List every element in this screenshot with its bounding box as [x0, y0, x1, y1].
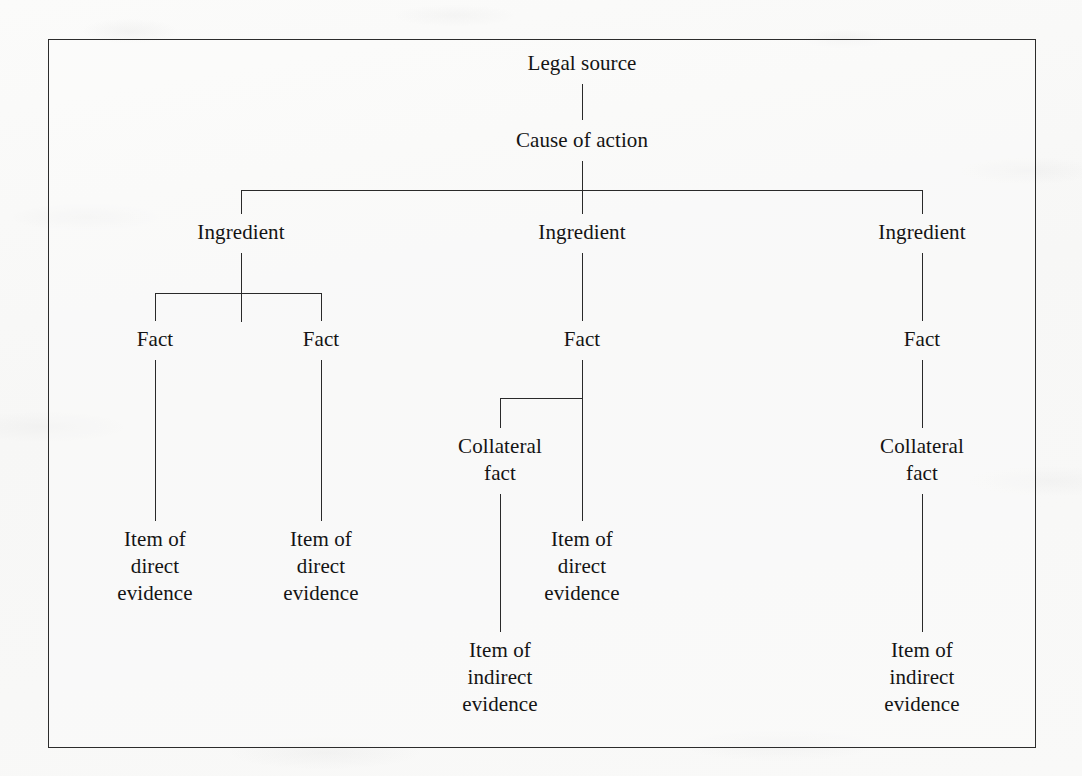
edge-bus-to-collateral-fact-1 — [500, 398, 501, 428]
node-item-indirect-evidence-2: Item of indirect evidence — [884, 637, 959, 718]
edge-fact-1-to-direct-evidence-1 — [155, 360, 156, 521]
node-ingredient-2: Ingredient — [538, 219, 625, 246]
figure-page: Legal source Cause of action Ingredient … — [0, 0, 1082, 776]
node-fact-2: Fact — [303, 326, 340, 353]
node-collateral-fact-2: Collateral fact — [880, 433, 964, 487]
node-legal-source: Legal source — [527, 50, 636, 77]
edge-bus-to-ingredient-3 — [922, 190, 923, 214]
edge-fact-2-to-direct-evidence-2 — [321, 360, 322, 521]
node-item-direct-evidence-2: Item of direct evidence — [283, 526, 358, 607]
node-cause-of-action: Cause of action — [516, 127, 648, 154]
edge-collateral-fact-1-to-indirect-evidence-1 — [500, 494, 501, 632]
node-item-indirect-evidence-1: Item of indirect evidence — [462, 637, 537, 718]
node-item-direct-evidence-1: Item of direct evidence — [117, 526, 192, 607]
edge-bus-to-ingredient-1 — [241, 190, 242, 214]
edge-bus-to-ingredient-2 — [582, 190, 583, 214]
edge-ingredient-1-stem — [241, 253, 242, 322]
edge-cause-of-action-stem — [582, 161, 583, 190]
node-ingredient-1: Ingredient — [197, 219, 284, 246]
edge-ingredient-2-to-fact-3 — [582, 253, 583, 321]
node-item-direct-evidence-3: Item of direct evidence — [544, 526, 619, 607]
edge-fact-bus-ingredient-1 — [155, 293, 321, 294]
edge-fact-3-to-collateral-bus — [500, 398, 582, 399]
node-collateral-fact-1: Collateral fact — [458, 433, 542, 487]
edge-bus-to-fact-2 — [321, 293, 322, 321]
edge-bus-to-fact-1 — [155, 293, 156, 321]
node-fact-4: Fact — [904, 326, 941, 353]
edge-fact-4-to-collateral-fact-2 — [922, 360, 923, 428]
node-fact-1: Fact — [137, 326, 174, 353]
node-ingredient-3: Ingredient — [878, 219, 965, 246]
node-fact-3: Fact — [564, 326, 601, 353]
edge-collateral-fact-2-to-indirect-evidence-2 — [922, 494, 923, 632]
edge-legal-source-to-cause-of-action — [582, 84, 583, 120]
edge-ingredient-3-to-fact-4 — [922, 253, 923, 321]
edge-fact-3-to-direct-evidence-3 — [582, 360, 583, 521]
